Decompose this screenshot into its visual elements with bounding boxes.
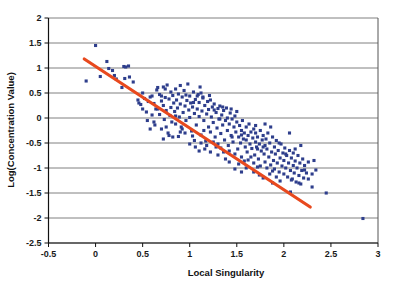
data-point bbox=[219, 132, 222, 135]
data-point bbox=[212, 121, 215, 124]
data-point bbox=[226, 129, 229, 132]
data-point bbox=[257, 157, 260, 160]
data-point bbox=[171, 135, 174, 138]
data-point bbox=[179, 102, 182, 105]
data-point bbox=[141, 107, 144, 110]
data-point bbox=[279, 156, 282, 159]
data-point bbox=[215, 126, 218, 129]
data-point bbox=[146, 119, 149, 122]
data-point bbox=[278, 170, 281, 173]
data-point bbox=[111, 69, 114, 72]
data-point bbox=[301, 157, 304, 160]
data-point bbox=[231, 117, 234, 120]
y-tick-label: -2 bbox=[33, 213, 41, 223]
data-point bbox=[162, 137, 165, 140]
data-point bbox=[160, 99, 163, 102]
data-point bbox=[182, 111, 185, 114]
x-tick-label: 0 bbox=[93, 249, 98, 259]
data-point bbox=[284, 166, 287, 169]
data-point bbox=[107, 67, 110, 70]
data-point bbox=[270, 150, 273, 153]
data-point bbox=[202, 129, 205, 132]
data-point bbox=[203, 104, 206, 107]
data-point bbox=[175, 98, 178, 101]
data-point bbox=[186, 82, 189, 85]
data-point bbox=[181, 127, 184, 130]
data-point bbox=[174, 122, 177, 125]
data-point bbox=[132, 80, 135, 83]
data-point bbox=[218, 117, 221, 120]
data-point bbox=[210, 115, 213, 118]
x-tick-label: 3 bbox=[375, 249, 380, 259]
data-point bbox=[209, 150, 212, 153]
data-point bbox=[141, 91, 144, 94]
data-point bbox=[136, 98, 139, 101]
data-point bbox=[209, 98, 212, 101]
data-point bbox=[196, 107, 199, 110]
data-point bbox=[216, 153, 219, 156]
data-point bbox=[252, 127, 255, 130]
data-point bbox=[181, 95, 184, 98]
data-point bbox=[123, 77, 126, 80]
y-tick-label: 1.5 bbox=[29, 38, 42, 48]
data-point bbox=[254, 140, 257, 143]
data-point bbox=[199, 85, 202, 88]
data-point bbox=[178, 115, 181, 118]
data-point bbox=[245, 125, 248, 128]
data-point bbox=[198, 149, 201, 152]
data-point bbox=[120, 86, 123, 89]
data-point bbox=[269, 163, 272, 166]
data-point bbox=[268, 141, 271, 144]
data-point bbox=[286, 175, 289, 178]
data-point bbox=[193, 112, 196, 115]
data-point bbox=[192, 90, 195, 93]
data-point bbox=[207, 108, 210, 111]
data-point bbox=[256, 135, 259, 138]
data-point bbox=[294, 147, 297, 150]
data-point bbox=[251, 136, 254, 139]
data-point bbox=[188, 142, 191, 145]
data-point bbox=[205, 144, 208, 147]
data-point bbox=[256, 147, 259, 150]
data-point bbox=[262, 134, 265, 137]
data-point bbox=[271, 135, 274, 138]
data-point bbox=[299, 144, 302, 147]
data-point bbox=[171, 94, 174, 97]
data-point bbox=[205, 112, 208, 115]
data-point bbox=[243, 131, 246, 134]
data-point bbox=[249, 130, 252, 133]
data-point bbox=[176, 106, 179, 109]
data-point bbox=[183, 131, 186, 134]
data-point bbox=[267, 155, 270, 158]
data-point bbox=[213, 102, 216, 105]
data-point bbox=[240, 129, 243, 132]
data-point bbox=[259, 164, 262, 167]
data-point bbox=[303, 168, 306, 171]
data-point bbox=[191, 105, 194, 108]
data-point bbox=[292, 164, 295, 167]
data-point bbox=[249, 155, 252, 158]
data-point bbox=[160, 127, 163, 130]
data-point bbox=[312, 159, 315, 162]
data-point bbox=[271, 169, 274, 172]
data-point bbox=[227, 144, 230, 147]
data-point bbox=[263, 152, 266, 155]
data-point bbox=[314, 168, 317, 171]
data-point bbox=[302, 176, 305, 179]
data-point bbox=[238, 124, 241, 127]
data-point bbox=[239, 141, 242, 144]
data-point bbox=[222, 109, 225, 112]
data-point bbox=[262, 145, 265, 148]
scatter-chart: -0.500.511.522.53 -2.5-2-1.5-1-0.500.511… bbox=[0, 0, 403, 285]
data-point bbox=[166, 83, 169, 86]
data-point bbox=[158, 113, 161, 116]
data-point bbox=[297, 181, 300, 184]
data-point bbox=[184, 93, 187, 96]
data-point bbox=[198, 115, 201, 118]
data-point bbox=[165, 125, 168, 128]
data-point bbox=[233, 114, 236, 117]
x-tick-label: 1 bbox=[187, 249, 192, 259]
data-point bbox=[263, 122, 266, 125]
data-point bbox=[128, 75, 131, 78]
data-point bbox=[250, 147, 253, 150]
